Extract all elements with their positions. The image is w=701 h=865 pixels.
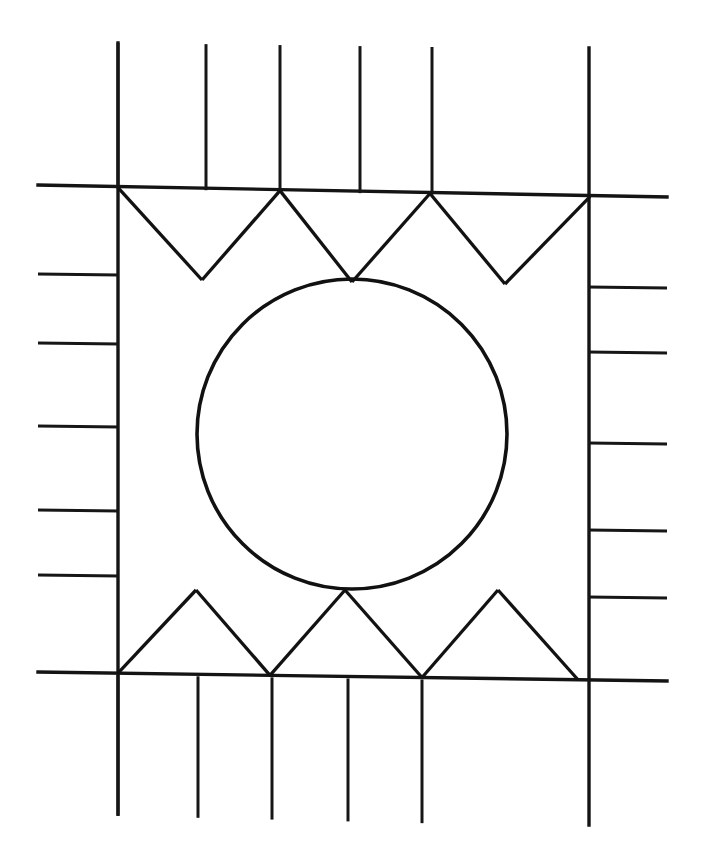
left-divider-1 xyxy=(38,274,119,275)
left-divider-3 xyxy=(38,426,119,427)
diagram-canvas xyxy=(0,0,701,865)
left-divider-2 xyxy=(38,343,119,344)
right-divider-4 xyxy=(588,530,667,531)
quilt-block-diagram xyxy=(0,0,701,865)
right-divider-3 xyxy=(588,443,667,444)
left-divider-4 xyxy=(38,510,119,511)
right-divider-2 xyxy=(588,352,667,353)
right-divider-5 xyxy=(588,597,667,598)
right-divider-1 xyxy=(588,287,667,288)
left-divider-5 xyxy=(38,575,119,576)
